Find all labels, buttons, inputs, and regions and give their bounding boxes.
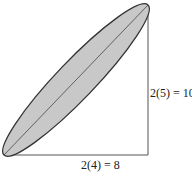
vertical-dimension-label: 2(5) = 10 [150, 86, 192, 100]
major-axis-line [4, 5, 148, 155]
horizontal-dimension-label: 2(4) = 8 [81, 158, 120, 172]
shaded-ellipse [0, 0, 162, 168]
ellipse-diagram: 2(5) = 10 2(4) = 8 [0, 0, 192, 173]
